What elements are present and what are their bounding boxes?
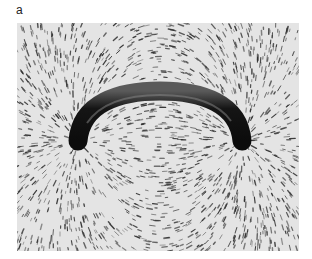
magnetic-field-photo <box>17 23 299 251</box>
panel-label: a <box>16 4 23 16</box>
iron-filings-field <box>17 23 299 251</box>
